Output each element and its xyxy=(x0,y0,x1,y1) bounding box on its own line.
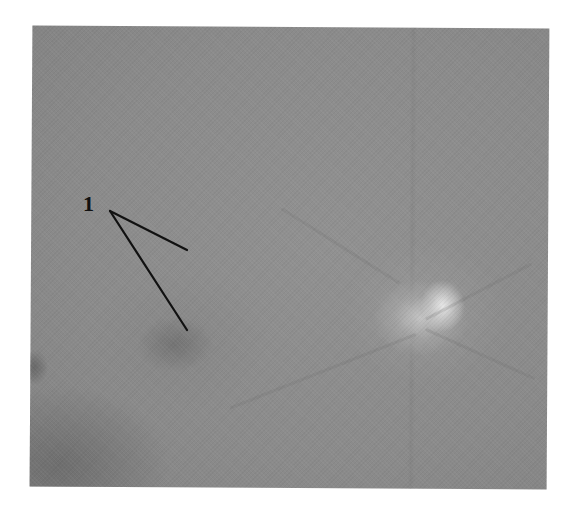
annotation-label: 1 xyxy=(83,193,94,215)
film-grain xyxy=(30,25,550,489)
retinal-vessel xyxy=(230,333,417,410)
fundus-photograph xyxy=(30,25,550,489)
fundus-figure: 1 xyxy=(0,0,571,512)
retinal-vessel xyxy=(425,262,533,320)
retinal-vessel xyxy=(425,328,536,380)
retinal-vessel xyxy=(280,207,400,284)
